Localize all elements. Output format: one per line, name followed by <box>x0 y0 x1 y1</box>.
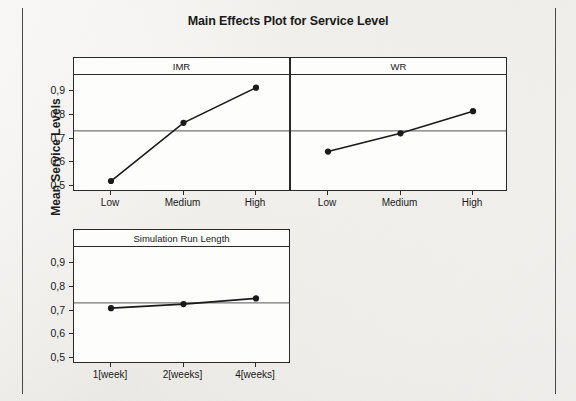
y-axis-tick-mark <box>69 357 73 358</box>
x-axis-tick-mark <box>183 191 184 195</box>
series-imr <box>74 75 289 190</box>
x-axis-tick-label: Low <box>101 197 119 208</box>
chart-title: Main Effects Plot for Service Level <box>0 14 576 28</box>
page-border-left <box>22 8 23 394</box>
x-axis-tick-label: Medium <box>165 197 201 208</box>
x-axis-tick-mark <box>255 363 256 367</box>
data-point <box>253 85 259 91</box>
y-axis-tick-label: 0,6 <box>31 155 65 167</box>
x-axis-tick-mark <box>110 191 111 195</box>
panel-header-simulation-run-length: Simulation Run Length <box>74 230 289 247</box>
series-wr <box>291 75 506 190</box>
data-point <box>108 305 114 311</box>
y-axis-tick-mark <box>69 310 73 311</box>
series-simulation-run-length <box>74 247 289 362</box>
plot-area-imr <box>74 75 289 190</box>
y-axis-tick-label: 0,7 <box>31 132 65 144</box>
y-axis-tick-label: 0,9 <box>31 84 65 96</box>
x-axis-tick-label: Medium <box>382 197 418 208</box>
x-axis-tick-label: 1[week] <box>93 369 127 380</box>
y-axis-tick-label: 0,8 <box>31 280 65 292</box>
x-axis-tick-label: 2[weeks] <box>163 369 202 380</box>
y-axis-tick-label: 0,5 <box>31 179 65 191</box>
x-axis-tick-mark <box>327 191 328 195</box>
y-axis-tick-mark <box>69 333 73 334</box>
y-axis-tick-label: 0,7 <box>31 304 65 316</box>
y-axis-tick-mark <box>69 185 73 186</box>
y-axis-tick-mark <box>69 262 73 263</box>
page-border-right <box>555 8 556 394</box>
y-axis-tick-mark <box>69 138 73 139</box>
y-axis-tick-label: 0,9 <box>31 256 65 268</box>
panel-wr: WR <box>290 57 507 191</box>
data-point <box>180 301 186 307</box>
y-axis-tick-mark <box>69 286 73 287</box>
panel-imr: IMR <box>73 57 290 191</box>
x-axis-tick-label: High <box>462 197 483 208</box>
x-axis-tick-label: 4[weeks] <box>235 369 274 380</box>
y-axis-tick-mark <box>69 114 73 115</box>
y-axis-tick-label: 0,8 <box>31 108 65 120</box>
panel-simulation-run-length: Simulation Run Length <box>73 229 290 363</box>
data-point <box>253 295 259 301</box>
data-point <box>180 120 186 126</box>
y-axis-tick-label: 0,5 <box>31 351 65 363</box>
plot-area-simulation-run-length <box>74 247 289 362</box>
y-axis-tick-label: 0,6 <box>31 327 65 339</box>
data-point <box>470 108 476 114</box>
x-axis-tick-label: High <box>245 197 266 208</box>
panel-header-wr: WR <box>291 58 506 75</box>
y-axis-tick-mark <box>69 161 73 162</box>
data-point <box>108 178 114 184</box>
series-line <box>111 88 256 181</box>
panel-header-imr: IMR <box>74 58 289 75</box>
x-axis-tick-mark <box>255 191 256 195</box>
y-axis-tick-mark <box>69 90 73 91</box>
x-axis-tick-mark <box>400 191 401 195</box>
x-axis-tick-mark <box>472 191 473 195</box>
x-axis-tick-mark <box>110 363 111 367</box>
x-axis-tick-mark <box>183 363 184 367</box>
data-point <box>397 130 403 136</box>
plot-area-wr <box>291 75 506 190</box>
x-axis-tick-label: Low <box>318 197 336 208</box>
data-point <box>325 148 331 154</box>
